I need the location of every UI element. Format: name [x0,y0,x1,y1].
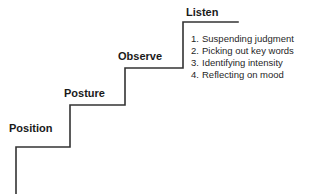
list-item: 2. Picking out key words [188,45,313,57]
listen-detail-list: 1. Suspending judgment 2. Picking out ke… [188,33,313,81]
list-item-label: Picking out key words [202,45,294,57]
list-item: 1. Suspending judgment [188,33,313,45]
list-item-number: 3. [188,57,199,69]
staircase-line [0,0,313,194]
step-label-observe: Observe [118,50,162,62]
list-item: 3. Identifying intensity [188,57,313,69]
list-item-number: 4. [188,69,199,81]
list-item-label: Identifying intensity [202,57,283,69]
step-label-position: Position [9,122,52,134]
list-item-label: Suspending judgment [202,33,294,45]
diagram-canvas: Position Posture Observe Listen 1. Suspe… [0,0,313,194]
list-item-label: Reflecting on mood [202,69,284,81]
list-item: 4. Reflecting on mood [188,69,313,81]
list-item-number: 2. [188,45,199,57]
step-label-posture: Posture [64,87,105,99]
step-label-listen: Listen [186,6,218,18]
list-item-number: 1. [188,33,199,45]
